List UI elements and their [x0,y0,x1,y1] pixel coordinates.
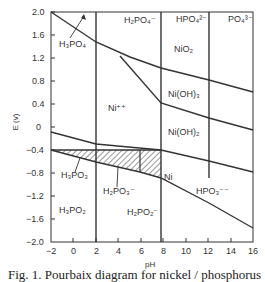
y-axis-label: E (v) [12,114,20,131]
label-hpo4: HPO₄²⁻ [176,15,207,24]
y-tick: −0.4 [26,146,44,155]
x-tick: −2 [46,247,56,256]
x-tick: 2 [94,247,99,256]
label-po4: PO₄³⁻ [228,15,253,24]
figure-caption: Fig. 1. Pourbaix diagram for nickel / ph… [8,267,261,282]
x-tick: 4 [116,247,121,256]
x-tick: 0 [71,247,76,256]
x-tick: 12 [203,247,213,256]
x-tick: 8 [161,247,166,256]
y-tick: 0.4 [32,100,45,109]
label-h2po2: H₂PO₂⁻ [127,208,159,217]
x-tick: 14 [226,247,236,256]
label-h2po3: H₂PO₃⁻ [103,187,135,196]
label-ni: Ni [164,173,173,182]
label-h3po4: H₃PO₄ [59,40,86,49]
label-h3po3: H₃PO₃ [61,171,88,180]
y-tick: −1.6 [26,215,44,224]
label-nioh3: Ni(OH)₃ [168,90,200,99]
label-hpo3: HPO₃⁻⁻ [196,187,229,196]
x-tick: 16 [248,247,258,256]
y-tick: 0 [36,123,41,132]
y-tick: −0.8 [26,169,44,178]
label-ni-plus-plus: Ni⁺⁺ [108,104,127,113]
label-h3po2: H₃PO₂ [59,206,86,215]
y-tick: −1.2 [26,192,44,201]
x-tick: 10 [181,247,191,256]
label-nioh2: Ni(OH)₂ [168,128,200,137]
y-tick: 1.2 [32,54,45,63]
y-tick: 1.6 [32,31,45,40]
label-nio2: NiO₂ [174,45,193,54]
y-tick: 2.0 [32,8,45,17]
x-tick: 6 [139,247,144,256]
label-h2po4: H₂PO₄⁻ [124,16,156,25]
y-tick: −2.0 [26,238,44,247]
y-tick: 0.8 [32,77,45,86]
